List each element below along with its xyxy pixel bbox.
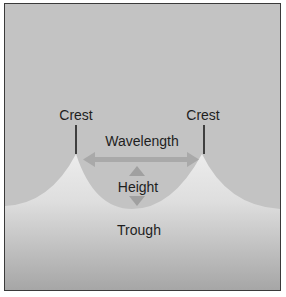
wave-diagram-frame: Crest Crest Wavelength Height Trough [4, 3, 281, 291]
crest-left-label: Crest [59, 107, 92, 123]
height-label: Height [118, 179, 158, 195]
trough-label: Trough [117, 222, 161, 238]
crest-right-label: Crest [186, 107, 219, 123]
wavelength-label: Wavelength [105, 133, 178, 149]
